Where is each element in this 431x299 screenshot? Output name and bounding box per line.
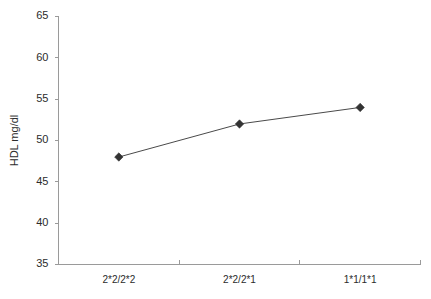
- y-axis-title: HDL mg/dl: [8, 115, 20, 167]
- x-axis-tick-label: 2*2/2*2: [102, 274, 135, 285]
- x-axis-tick-label: 1*1/1*1: [344, 274, 377, 285]
- x-axis-tick-label: 2*2/2*1: [223, 274, 256, 285]
- y-axis-tick-label: 60: [36, 51, 48, 63]
- y-axis-tick-label: 45: [36, 175, 48, 187]
- y-axis-tick-label: 35: [36, 257, 48, 269]
- chart-container: 35404550556065 2*2/2*22*2/2*11*1/1*1 HDL…: [0, 0, 431, 299]
- y-axis-tick-label: 50: [36, 133, 48, 145]
- series-line-hdl: [119, 107, 360, 157]
- x-axis-tick-marks: [59, 260, 421, 265]
- data-point-marker: [356, 103, 364, 111]
- y-axis-tick-marks: [55, 17, 59, 265]
- y-axis-tick-label: 40: [36, 216, 48, 228]
- data-point-marker: [235, 120, 243, 128]
- y-axis-tick-label: 65: [36, 9, 48, 21]
- y-axis-tick-labels: 35404550556065: [36, 9, 48, 269]
- data-point-marker: [115, 153, 123, 161]
- line-chart: 35404550556065 2*2/2*22*2/2*11*1/1*1 HDL…: [0, 0, 431, 299]
- x-axis-tick-labels: 2*2/2*22*2/2*11*1/1*1: [102, 274, 377, 285]
- y-axis-tick-label: 55: [36, 92, 48, 104]
